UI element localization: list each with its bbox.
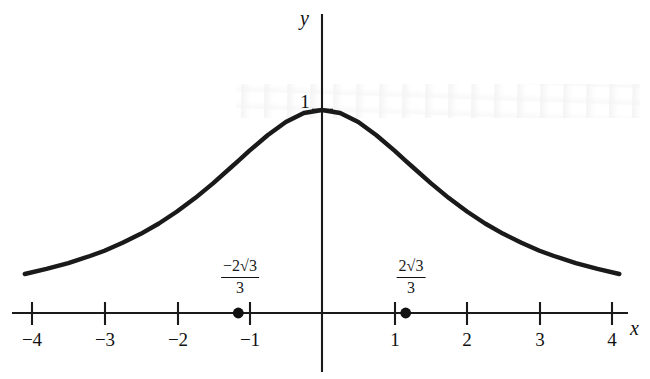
x-tick-label-pos1: 1 bbox=[390, 330, 400, 349]
graph-canvas bbox=[0, 0, 650, 379]
left-inflection-point bbox=[233, 308, 244, 319]
right-inflection-annotation: 2√3 3 bbox=[397, 258, 426, 297]
right-inflection-point bbox=[400, 308, 411, 319]
x-tick-label-pos3: 3 bbox=[535, 330, 545, 349]
x-tick-label-neg1: −1 bbox=[240, 330, 260, 349]
left-inflection-annotation: −2√3 3 bbox=[221, 258, 259, 297]
left-inflection-fraction-bar bbox=[221, 277, 259, 279]
x-tick-label-pos4: 4 bbox=[607, 330, 617, 349]
right-inflection-denominator: 3 bbox=[397, 279, 426, 297]
y-axis-label: y bbox=[300, 8, 309, 28]
right-inflection-numerator: 2√3 bbox=[397, 258, 426, 276]
x-tick-label-neg2: −2 bbox=[168, 330, 188, 349]
left-inflection-numerator: −2√3 bbox=[221, 258, 259, 276]
x-tick-label-neg4: −4 bbox=[22, 330, 42, 349]
right-inflection-fraction-bar bbox=[397, 277, 426, 279]
x-tick-label-neg3: −3 bbox=[95, 330, 115, 349]
x-tick-label-pos2: 2 bbox=[462, 330, 472, 349]
y-tick-label-1: 1 bbox=[300, 92, 310, 111]
left-inflection-denominator: 3 bbox=[221, 279, 259, 297]
graph-figure: y x 1 −4 −3 −2 −1 1 2 3 4 −2√3 3 2√3 3 bbox=[0, 0, 650, 379]
x-axis-label: x bbox=[630, 318, 639, 338]
